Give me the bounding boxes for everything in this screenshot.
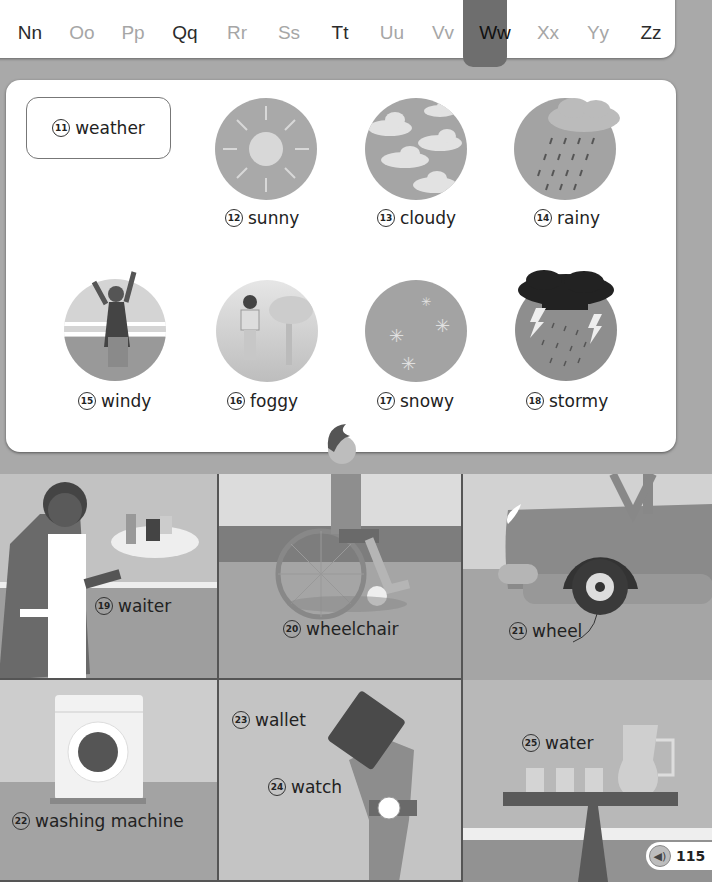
letter-tab-uu[interactable]: Uu <box>370 22 414 44</box>
snow-icon: ✳✳✳✳ <box>365 280 467 382</box>
sun-icon <box>215 98 317 200</box>
boy-head-illustration <box>320 420 360 480</box>
speaker-icon[interactable]: ◀) <box>649 845 671 867</box>
label-windy: 15windy <box>78 391 151 411</box>
letter-tab-ww[interactable]: Ww <box>473 22 517 44</box>
waiter-illustration <box>0 474 219 680</box>
label-rainy: 14rainy <box>534 208 600 228</box>
car-illustration <box>463 474 712 680</box>
label-stormy: 18stormy <box>526 391 608 411</box>
label-snowy: 17snowy <box>377 391 454 411</box>
letter-tab-ss[interactable]: Ss <box>267 22 311 44</box>
label-watch: 24watch <box>268 777 342 797</box>
weather-title-box: 11 weather <box>26 97 171 159</box>
scene-wheelchair <box>219 474 463 680</box>
page-number: 115 <box>676 848 705 864</box>
scene-waiter <box>0 474 219 680</box>
label-wallet: 23wallet <box>232 710 306 730</box>
letter-tab-qq[interactable]: Qq <box>163 22 207 44</box>
letter-tab-xx[interactable]: Xx <box>526 22 570 44</box>
letter-tab-rr[interactable]: Rr <box>215 22 259 44</box>
svg-text:✳: ✳ <box>421 295 431 309</box>
label-wheelchair: 20wheelchair <box>283 619 399 639</box>
washing-machine-illustration <box>0 680 219 882</box>
label-wheel: 21wheel <box>509 621 582 641</box>
svg-text:✳: ✳ <box>435 315 450 336</box>
alphabet-row: NnOoPpQqRrSsTtUuVvWwXxYyZz <box>0 22 680 48</box>
svg-text:✳: ✳ <box>389 325 404 346</box>
wind-icon <box>64 262 166 382</box>
rain-icon <box>514 98 624 200</box>
label-cloudy: 13cloudy <box>377 208 456 228</box>
letter-tab-pp[interactable]: Pp <box>111 22 155 44</box>
label-foggy: 16foggy <box>227 391 298 411</box>
letter-tab-nn[interactable]: Nn <box>8 22 52 44</box>
label-sunny: 12sunny <box>225 208 299 228</box>
item-word: weather <box>75 118 145 138</box>
letter-tab-vv[interactable]: Vv <box>421 22 465 44</box>
clouds-icon <box>365 98 467 200</box>
fog-icon <box>216 280 318 382</box>
letter-tab-tt[interactable]: Tt <box>318 22 362 44</box>
weather-title: 11 weather <box>52 118 145 138</box>
label-water: 25water <box>522 733 593 753</box>
svg-text:✳: ✳ <box>401 353 416 374</box>
letter-tab-yy[interactable]: Yy <box>576 22 620 44</box>
letter-tab-zz[interactable]: Zz <box>629 22 673 44</box>
item-number: 11 <box>52 119 70 137</box>
label-waiter: 19waiter <box>95 596 171 616</box>
storm-icon <box>514 268 618 382</box>
label-washing-machine: 22washing machine <box>12 811 184 831</box>
scene-washing-machine <box>0 680 219 882</box>
wheelchair-illustration <box>219 474 463 680</box>
scene-wheel <box>463 474 712 680</box>
letter-tab-oo[interactable]: Oo <box>60 22 104 44</box>
audio-page-badge[interactable]: ◀) 115 <box>646 842 712 870</box>
